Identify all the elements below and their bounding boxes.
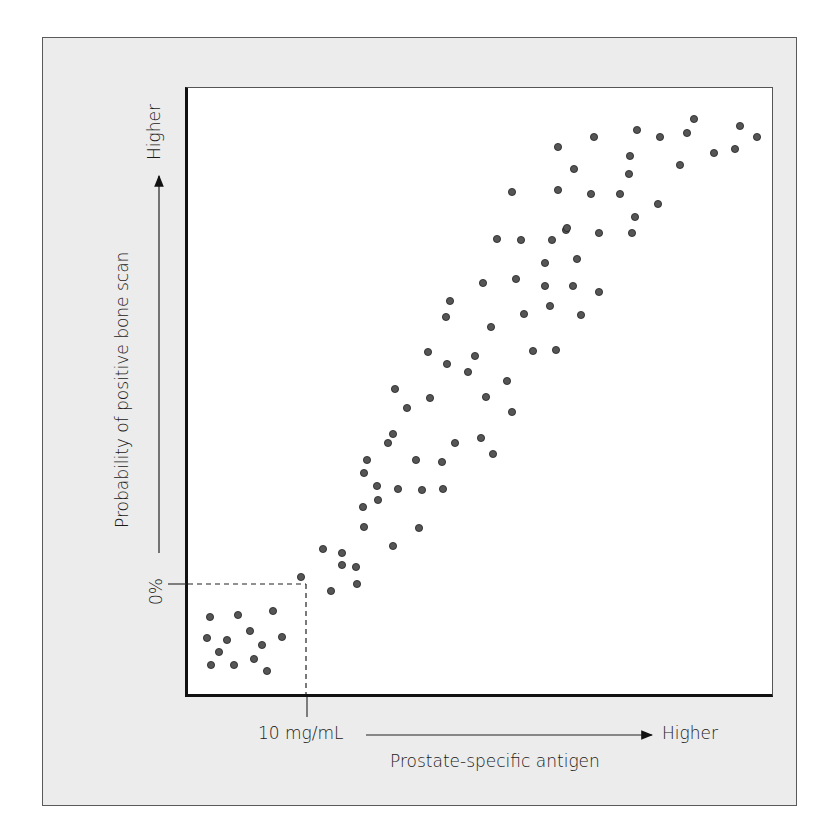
y-axis-higher-label: Higher: [144, 104, 164, 160]
y-tick-label: 0%: [146, 578, 166, 605]
x-axis-title: Prostate-specific antigen: [390, 751, 600, 771]
plot-area: [185, 87, 773, 697]
x-axis-higher-label: Higher: [662, 723, 718, 743]
x-tick-label: 10 mg/mL: [258, 723, 344, 743]
y-axis-title: Probability of positive bone scan: [112, 252, 132, 528]
